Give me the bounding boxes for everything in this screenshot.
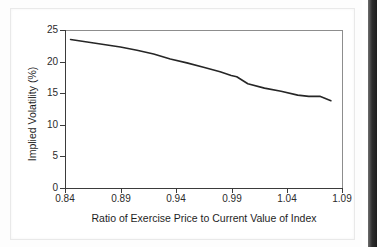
page-root: 0 5 10 15 20 25 0.84 0.89 0.94 0.99 1.04… <box>0 0 377 247</box>
implied-volatility-chart: 0 5 10 15 20 25 0.84 0.89 0.94 0.99 1.04… <box>0 0 377 247</box>
page-edge-shadow <box>368 0 377 247</box>
implied-volatility-line <box>71 39 331 100</box>
data-series-svg <box>0 0 377 247</box>
